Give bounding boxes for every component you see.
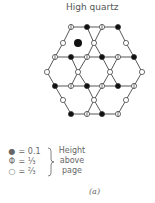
open-atom-icon	[107, 69, 112, 74]
filled-circle-icon: ●	[8, 147, 16, 157]
filled-atom-icon	[84, 83, 89, 88]
legend-row-filled: ● = 0.1	[8, 147, 41, 157]
open-atom-icon	[123, 97, 128, 102]
figure-caption: (a)	[89, 187, 100, 196]
filled-atom-icon	[84, 24, 89, 29]
open-circle-icon: ○	[8, 167, 16, 177]
filled-atom-icon	[68, 111, 73, 116]
brace-icon	[48, 147, 54, 177]
center-atom-icon	[74, 39, 82, 47]
filled-atom-icon	[99, 54, 104, 59]
filled-atom-icon	[115, 83, 120, 88]
legend-row-half: Φ = ⅓	[8, 157, 41, 167]
open-atom-icon	[123, 40, 128, 45]
open-atom-icon	[60, 97, 65, 102]
open-atom-icon	[91, 40, 96, 45]
filled-atom-icon	[52, 83, 57, 88]
filled-atom-icon	[99, 111, 104, 116]
legend: ● = 0.1 Φ = ⅓ ○ = ⅔	[8, 147, 41, 177]
legend-note: Height above page	[57, 146, 87, 176]
open-atom-icon	[75, 69, 80, 74]
open-atom-icon	[91, 97, 96, 102]
filled-atom-icon	[131, 54, 136, 59]
legend-row-open: ○ = ⅔	[8, 167, 41, 177]
open-atom-icon	[139, 69, 144, 74]
filled-atom-icon	[68, 54, 73, 59]
quartz-lattice	[0, 0, 155, 130]
open-atom-icon	[44, 69, 49, 74]
half-circle-icon: Φ	[8, 157, 16, 167]
filled-atom-icon	[115, 24, 120, 29]
open-atom-icon	[60, 40, 65, 45]
lattice-nodes	[44, 24, 144, 116]
